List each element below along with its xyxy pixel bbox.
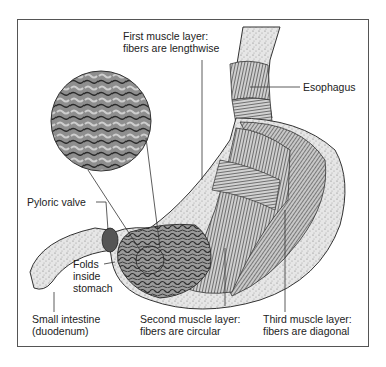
label-line: fibers are circular — [140, 325, 240, 337]
label-line: Third muscle layer: — [263, 313, 352, 325]
label-line: Small intestine — [32, 313, 100, 325]
label-second-muscle-layer: Second muscle layer: fibers are circular — [140, 313, 240, 337]
label-small-intestine: Small intestine (duodenum) — [32, 313, 100, 337]
label-first-muscle-layer: First muscle layer: fibers are lengthwis… — [123, 30, 219, 54]
label-line: First muscle layer: — [123, 30, 219, 42]
label-pyloric-valve: Pyloric valve — [27, 196, 86, 208]
stomach-illustration — [0, 0, 386, 367]
label-line: inside — [73, 270, 113, 282]
label-folds-inside-stomach: Folds inside stomach — [73, 258, 113, 294]
label-line: fibers are diagonal — [263, 325, 352, 337]
label-third-muscle-layer: Third muscle layer: fibers are diagonal — [263, 313, 352, 337]
label-esophagus: Esophagus — [303, 81, 356, 93]
label-line: Second muscle layer: — [140, 313, 240, 325]
label-line: Folds — [73, 258, 113, 270]
label-line: fibers are lengthwise — [123, 42, 219, 54]
label-line: stomach — [73, 282, 113, 294]
label-line: (duodenum) — [32, 325, 100, 337]
